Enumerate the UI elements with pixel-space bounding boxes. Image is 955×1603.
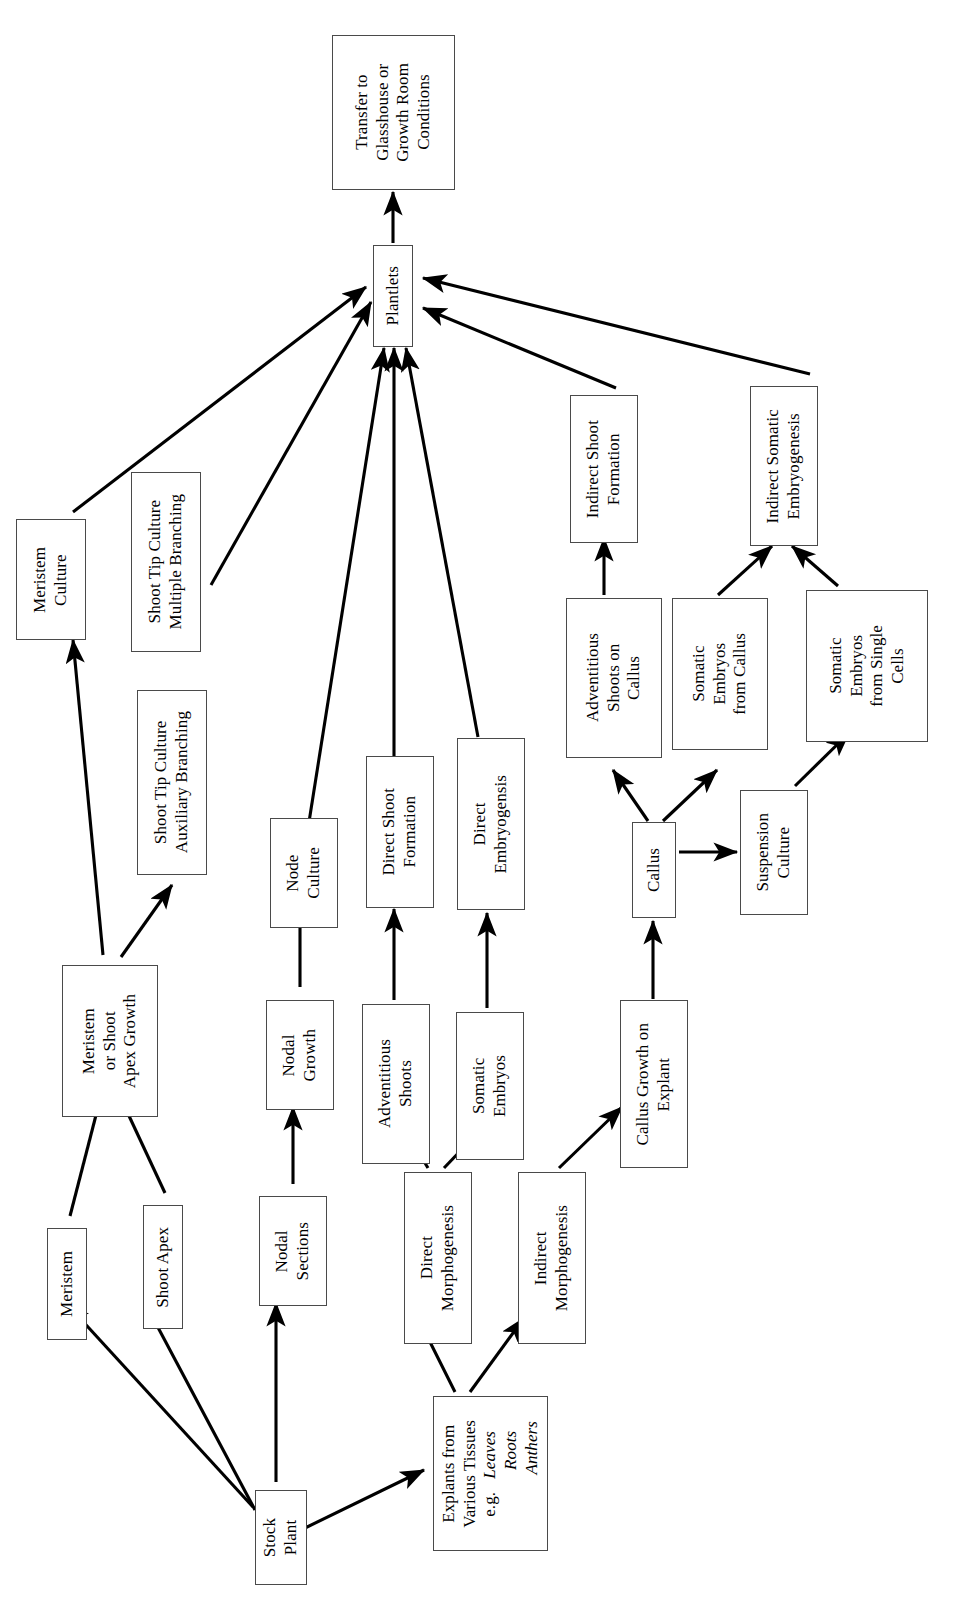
- node-adventitious-shoots-on-callus-label: Adventitious Shoots on Callus: [583, 633, 645, 722]
- node-transfer-label: Transfer to Glasshouse or Growth Room Co…: [352, 63, 435, 162]
- node-shoot-tip-culture-auxiliary-branching[interactable]: Shoot Tip Culture Auxiliary Branching: [137, 690, 207, 875]
- node-indirect-shoot-formation-label: Indirect Shoot Formation: [583, 420, 624, 518]
- node-somatic-embryos-from-single-cells-label: Somatic Embryos from Single Cells: [826, 625, 909, 707]
- node-somatic-embryos[interactable]: Somatic Embryos: [456, 1012, 524, 1160]
- node-nodal-growth-label: Nodal Growth: [279, 1029, 320, 1082]
- node-indirect-somatic-embryogenesis[interactable]: Indirect Somatic Embryogenesis: [750, 386, 818, 546]
- edge-meristemculture-plantlets: [73, 287, 366, 512]
- node-nodal-sections-label: Nodal Sections: [272, 1222, 313, 1280]
- node-indirect-morphogenesis[interactable]: Indirect Morphogenesis: [518, 1172, 586, 1344]
- node-meristem-culture-label: Meristem Culture: [30, 547, 71, 613]
- edge-nodeculture-plantlets: [309, 348, 384, 822]
- node-stc-auxiliary-label: Shoot Tip Culture Auxiliary Branching: [151, 711, 192, 853]
- node-indirect-somatic-embryogenesis-label: Indirect Somatic Embryogenesis: [763, 409, 804, 523]
- node-direct-embryogensis[interactable]: Direct Embryogensis: [457, 738, 525, 910]
- node-plantlets-label: Plantlets: [383, 266, 404, 325]
- flowchart-canvas: Transfer to Glasshouse or Growth Room Co…: [0, 0, 955, 1603]
- node-suspension-culture[interactable]: Suspension Culture: [740, 790, 808, 915]
- node-adventitious-shoots-label: Adventitious Shoots: [375, 1039, 416, 1128]
- node-adventitious-shoots-on-callus[interactable]: Adventitious Shoots on Callus: [566, 598, 662, 758]
- node-direct-embryogensis-label: Direct Embryogensis: [470, 775, 511, 873]
- edge-indirectmorph-callusgrowth: [559, 1107, 622, 1168]
- node-masg-label: Meristem or Shoot Apex Growth: [79, 994, 141, 1088]
- node-plantlets[interactable]: Plantlets: [373, 245, 413, 347]
- node-somatic-embryos-from-callus-label: Somatic Embryos from Callus: [689, 633, 751, 715]
- node-suspension-culture-label: Suspension Culture: [753, 813, 794, 891]
- edge-somaticsingle-indirectsomatic: [792, 546, 838, 586]
- node-transfer[interactable]: Transfer to Glasshouse or Growth Room Co…: [332, 35, 455, 190]
- node-explants[interactable]: Explants from Various Tissues e.g. Leave…: [433, 1396, 548, 1551]
- edge-indirectshoot-plantlets: [423, 308, 616, 388]
- edge-explants-indirectmorph: [470, 1318, 524, 1392]
- node-callus-label: Callus: [644, 848, 665, 892]
- node-callus[interactable]: Callus: [632, 822, 676, 918]
- node-node-culture[interactable]: Node Culture: [270, 818, 338, 928]
- node-node-culture-label: Node Culture: [283, 847, 324, 899]
- node-shoot-apex-label: Shoot Apex: [153, 1227, 174, 1308]
- edge-stock-meristem: [66, 1303, 253, 1507]
- node-meristem-label: Meristem: [57, 1251, 78, 1317]
- node-callus-growth-on-explant-label: Callus Growth on Explant: [633, 1023, 674, 1145]
- edge-stock-explants: [305, 1470, 424, 1528]
- node-meristem[interactable]: Meristem: [47, 1228, 87, 1340]
- edge-somaticcallus-indirectsomatic: [718, 546, 772, 595]
- node-stock-plant-label: Stock Plant: [260, 1518, 301, 1557]
- edge-indirectsomatic-plantlets: [423, 278, 810, 374]
- node-callus-growth-on-explant[interactable]: Callus Growth on Explant: [620, 1000, 688, 1168]
- node-nodal-growth[interactable]: Nodal Growth: [266, 1000, 334, 1110]
- node-indirect-morphogenesis-label: Indirect Morphogenesis: [531, 1205, 572, 1311]
- edge-masg-meristemculture: [73, 640, 103, 955]
- edge-stock-shootapex: [145, 1303, 255, 1510]
- node-adventitious-shoots[interactable]: Adventitious Shoots: [362, 1004, 430, 1164]
- edge-callus-advshootscallus: [613, 770, 648, 821]
- node-somatic-embryos-from-callus[interactable]: Somatic Embryos from Callus: [672, 598, 768, 750]
- edge-masg-stcaux: [121, 885, 172, 957]
- node-meristem-or-shoot-apex-growth[interactable]: Meristem or Shoot Apex Growth: [62, 965, 158, 1117]
- node-direct-shoot-formation-label: Direct Shoot Formation: [379, 788, 420, 876]
- node-meristem-culture[interactable]: Meristem Culture: [16, 519, 86, 640]
- edge-stcmultiple-plantlets: [211, 302, 371, 585]
- node-shoot-tip-culture-multiple-branching[interactable]: Shoot Tip Culture Multiple Branching: [131, 472, 201, 652]
- node-direct-shoot-formation[interactable]: Direct Shoot Formation: [366, 756, 434, 908]
- edge-callus-somaticcallus: [663, 770, 717, 821]
- node-stock-plant[interactable]: Stock Plant: [255, 1490, 307, 1585]
- node-explants-label: Explants from Various Tissues e.g. Leave…: [439, 1420, 543, 1528]
- node-nodal-sections[interactable]: Nodal Sections: [259, 1196, 327, 1306]
- node-somatic-embryos-from-single-cells[interactable]: Somatic Embryos from Single Cells: [806, 590, 928, 742]
- node-somatic-embryos-label: Somatic Embryos: [469, 1055, 510, 1117]
- node-direct-morphogenesis[interactable]: Direct Morphogenesis: [404, 1172, 472, 1344]
- node-stc-multiple-label: Shoot Tip Culture Multiple Branching: [145, 494, 186, 629]
- node-direct-morphogenesis-label: Direct Morphogenesis: [417, 1205, 458, 1311]
- edge-directembryo-plantlets: [406, 348, 478, 737]
- node-shoot-apex[interactable]: Shoot Apex: [143, 1205, 183, 1329]
- node-indirect-shoot-formation[interactable]: Indirect Shoot Formation: [570, 395, 638, 543]
